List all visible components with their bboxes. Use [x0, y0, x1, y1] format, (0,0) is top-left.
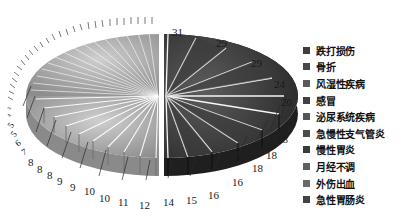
value-label-8c: 8	[28, 157, 34, 168]
legend-swatch-icon	[303, 80, 310, 87]
center-gap	[159, 30, 164, 180]
legend-label: 泌尿系统疾病	[316, 109, 375, 124]
legend-label: 慢性胃炎	[316, 142, 355, 157]
legend-swatch-icon	[303, 130, 310, 137]
value-label-16a: 16	[232, 177, 243, 188]
legend-item-8[interactable]: 外伤出血	[303, 175, 411, 192]
pie-graphic: 31 29 29 24 20 18 18 18 16 16 15 14 12 1…	[0, 0, 300, 221]
legend-label: 骨折	[316, 59, 336, 74]
value-label-9b: 9	[57, 176, 63, 187]
value-label-12: 12	[139, 200, 150, 211]
value-label-10b: 10	[84, 186, 95, 197]
legend-label: 感冒	[316, 93, 336, 108]
pie-chart: 31 29 29 24 20 18 18 18 16 16 15 14 12 1…	[0, 0, 411, 221]
left-top-upper	[26, 34, 160, 96]
legend-swatch-icon	[303, 146, 310, 153]
legend-item-6[interactable]: 慢性胃炎	[303, 142, 411, 159]
legend-swatch-icon	[303, 47, 310, 54]
legend-label: 月经不调	[316, 159, 355, 174]
legend-label: 急慢性支气管炎	[316, 126, 385, 141]
value-label-8b: 8	[37, 164, 43, 175]
legend-item-0[interactable]: 跌打损伤	[303, 42, 411, 59]
legend-swatch-icon	[303, 63, 310, 70]
legend: 跌打损伤 骨折 风湿性疾病 感冒 泌尿系统疾病 急慢性支气管炎 慢性胃炎 月经	[303, 42, 411, 208]
legend-item-4[interactable]: 泌尿系统疾病	[303, 108, 411, 125]
value-label-18b: 18	[266, 150, 277, 161]
value-label-31: 31	[172, 27, 183, 38]
legend-swatch-icon	[303, 97, 310, 104]
value-label-20: 20	[281, 97, 292, 108]
legend-swatch-icon	[303, 113, 310, 120]
legend-item-3[interactable]: 感冒	[303, 92, 411, 109]
legend-label: 跌打损伤	[316, 43, 355, 58]
legend-item-2[interactable]: 风湿性疾病	[303, 75, 411, 92]
legend-label: 外伤出血	[316, 176, 355, 191]
pie-left-half	[26, 33, 160, 176]
legend-label: 急性胃肠炎	[316, 192, 365, 207]
legend-item-7[interactable]: 月经不调	[303, 158, 411, 175]
value-label-29a: 29	[216, 38, 227, 49]
value-label-8a: 8	[47, 170, 53, 181]
value-label-10a: 10	[99, 193, 110, 204]
legend-item-1[interactable]: 骨折	[303, 59, 411, 76]
legend-label: 风湿性疾病	[316, 76, 365, 91]
value-label-18a: 18	[277, 134, 288, 145]
value-label-11: 11	[118, 197, 129, 208]
legend-item-9[interactable]: 急性胃肠炎	[303, 191, 411, 208]
value-label-29b: 29	[251, 58, 262, 69]
legend-swatch-icon	[303, 180, 310, 187]
value-label-15: 15	[186, 195, 197, 206]
value-label-16b: 16	[208, 190, 219, 201]
value-label-14: 14	[163, 197, 174, 208]
value-label-18c: 18	[252, 163, 263, 174]
pie-right-half	[164, 34, 298, 176]
legend-swatch-icon	[303, 163, 310, 170]
value-label-9a: 9	[70, 182, 76, 193]
pie-svg	[0, 0, 300, 221]
legend-swatch-icon	[303, 196, 310, 203]
value-label-24: 24	[274, 79, 285, 90]
legend-item-5[interactable]: 急慢性支气管炎	[303, 125, 411, 142]
